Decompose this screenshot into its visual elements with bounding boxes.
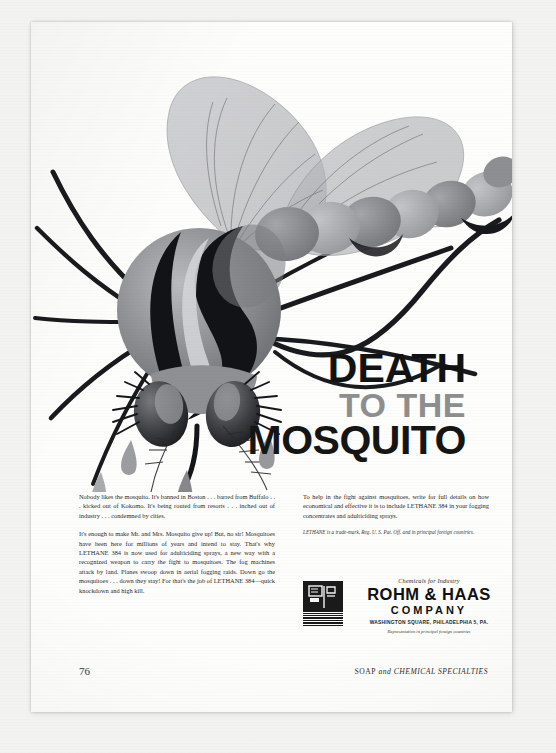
right-paragraph-1: To help in the fight against mosquitoes,… <box>303 492 489 520</box>
journal-name-part2: CHEMICAL SPECIALTIES <box>394 667 488 676</box>
screenshot-canvas: DEATH TO THE MOSQUITO Nobody likes the m… <box>0 0 556 753</box>
journal-name-part1: SOAP <box>355 667 376 676</box>
trademark-legal-note: LETHANE is a trade-mark, Reg. U. S. Pat.… <box>303 529 489 536</box>
ad-body-copy: Nobody likes the mosquito. It's banned i… <box>31 492 512 712</box>
advertiser-name: ROHM & HAAS <box>355 586 503 603</box>
advertiser-text: Chemicals for Industry ROHM & HAAS COMPA… <box>355 577 503 634</box>
logo-wave-pattern <box>303 611 343 627</box>
page-number: 76 <box>79 665 90 677</box>
headline-line-mosquito: MOSQUITO <box>236 422 466 460</box>
monogram-icon <box>307 584 339 610</box>
journal-footer: SOAP and CHEMICAL SPECIALTIES <box>355 667 488 676</box>
advertiser-address: WASHINGTON SQUARE, PHILADELPHIA 5, PA. <box>355 620 503 625</box>
headline-line-death: DEATH <box>236 350 466 388</box>
journal-name-and: and <box>378 667 391 676</box>
body-copy-left-column: Nobody likes the mosquito. It's banned i… <box>79 492 275 604</box>
body-copy-right-column: To help in the fight against mosquitoes,… <box>303 492 489 546</box>
rohm-and-haas-logo <box>303 581 343 627</box>
left-paragraph-2: It's enough to make Mr. and Mrs. Mosquit… <box>79 529 275 595</box>
left-paragraph-1: Nobody likes the mosquito. It's banned i… <box>79 492 275 520</box>
ad-headline: DEATH TO THE MOSQUITO <box>236 350 466 460</box>
advertiser-company-word: COMPANY <box>355 605 503 616</box>
magazine-page: DEATH TO THE MOSQUITO Nobody likes the m… <box>31 22 512 712</box>
advertiser-representation: Representation in principal foreign coun… <box>355 629 503 634</box>
advertiser-tagline: Chemicals for Industry <box>355 577 503 584</box>
